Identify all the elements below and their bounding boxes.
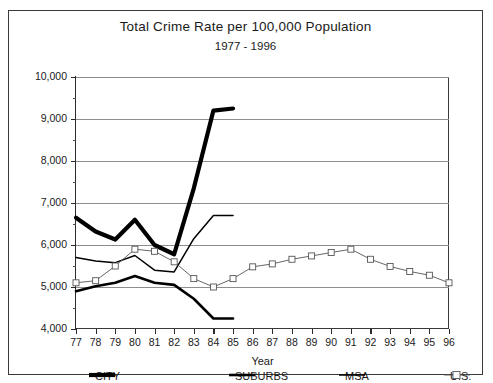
chart-title: Total Crime Rate per 100,000 Population [9,19,482,34]
x-tick-label: 96 [437,336,461,348]
series-marker [191,276,197,282]
series-line-suburbs [76,276,233,318]
x-tick [76,329,77,334]
legend-item-suburbs[interactable]: SUBURBS [229,370,288,382]
series-marker [230,276,236,282]
chart-subtitle: 1977 - 1996 [9,40,482,52]
x-tick [331,329,332,334]
x-tick [155,329,156,334]
y-tick-label: 6,000 [21,238,67,250]
x-tick [370,329,371,334]
x-tick [213,329,214,334]
series-marker [426,272,432,278]
x-tick [233,329,234,334]
y-tick-label: 4,000 [21,322,67,334]
legend-item-city[interactable]: CITY [89,370,120,382]
series-marker [210,284,216,290]
series-marker [93,278,99,284]
y-tick-label: 10,000 [21,70,67,82]
y-tick-label: 5,000 [21,280,67,292]
series-marker [152,248,158,254]
x-tick [351,329,352,334]
x-tick [96,329,97,334]
series-marker [446,280,452,286]
series-marker [112,263,118,269]
legend-item-msa[interactable]: MSA [339,370,369,382]
x-tick [194,329,195,334]
series-marker [269,261,275,267]
series-marker [132,246,138,252]
y-tick-label: 9,000 [21,112,67,124]
x-tick [410,329,411,334]
x-tick [135,329,136,334]
series-marker [367,256,373,262]
chart-legend: CITYSUBURBSMSAU.S. [69,368,469,383]
series-marker [250,264,256,270]
series-marker [407,268,413,274]
y-tick-label: 7,000 [21,196,67,208]
x-tick [115,329,116,334]
series-marker [348,246,354,252]
y-tick-label: 8,000 [21,154,67,166]
x-tick [174,329,175,334]
series-marker [387,263,393,269]
chart-frame: Total Crime Rate per 100,000 Population … [8,10,483,375]
x-tick [390,329,391,334]
x-tick [253,329,254,334]
series-marker [289,256,295,262]
x-tick [292,329,293,334]
series-lines [76,77,449,329]
x-tick [429,329,430,334]
x-tick [449,329,450,334]
x-tick [272,329,273,334]
x-tick [312,329,313,334]
x-axis-title: Year [76,355,449,367]
plot-area [76,77,449,329]
series-marker [328,250,334,256]
legend-item-us[interactable]: U.S. [444,370,471,382]
series-marker [171,259,177,265]
series-marker [73,280,79,286]
series-line-city [76,109,233,255]
series-marker [309,253,315,259]
